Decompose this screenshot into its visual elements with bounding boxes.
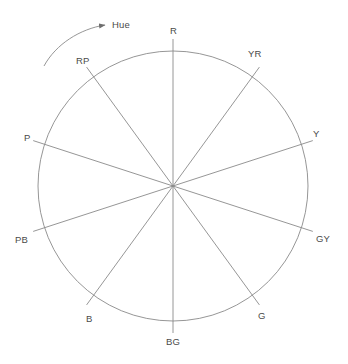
hue-label-r: R (170, 26, 177, 36)
hue-label-pb: PB (15, 235, 28, 245)
hue-label-g: G (258, 311, 266, 321)
hue-wheel-graphic (0, 0, 348, 364)
hue-direction-label: Hue (112, 20, 130, 30)
hue-label-p: P (24, 133, 31, 143)
hue-label-bg: BG (166, 337, 180, 347)
hue-spokes-group (33, 39, 313, 333)
hue-label-gy: GY (316, 234, 330, 244)
hue-label-rp: RP (76, 56, 90, 66)
hue-direction-arrow-icon (44, 25, 105, 66)
hue-label-y: Y (313, 129, 320, 139)
hue-label-yr: YR (248, 49, 262, 59)
hue-label-b: B (86, 314, 93, 324)
hue-circle-figure: Hue R YR Y GY G BG B PB P RP (0, 0, 348, 364)
